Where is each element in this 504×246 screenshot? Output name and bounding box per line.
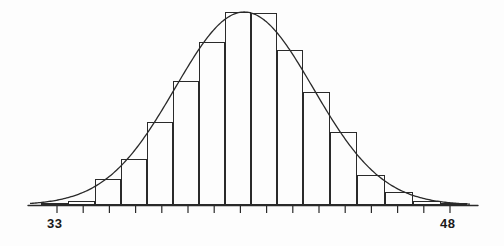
histogram-bar xyxy=(278,51,303,205)
histogram-bars xyxy=(42,13,467,205)
histogram-figure: 33 48 xyxy=(0,0,504,246)
x-axis-label-left: 33 xyxy=(47,216,62,231)
histogram-bar xyxy=(42,204,68,205)
histogram-bar xyxy=(226,13,251,205)
histogram-bar xyxy=(200,43,225,205)
histogram-bar xyxy=(174,82,199,205)
histogram-bar xyxy=(331,133,357,205)
histogram-bar xyxy=(414,202,441,205)
histogram-bar xyxy=(122,160,147,205)
x-axis xyxy=(28,206,478,214)
histogram-bar xyxy=(148,123,173,205)
histogram-bar xyxy=(252,14,277,205)
histogram-bar xyxy=(358,176,385,205)
x-axis-label-right: 48 xyxy=(440,216,455,231)
x-axis-ticks xyxy=(57,206,450,213)
histogram-plot xyxy=(0,0,504,246)
histogram-bar xyxy=(69,202,95,205)
